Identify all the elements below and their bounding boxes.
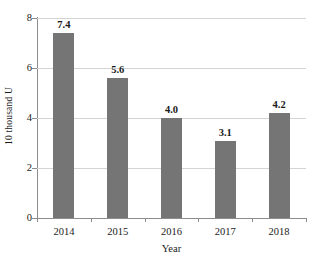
gridline-6	[37, 68, 306, 69]
bar-chart: 10 thousand U 7.45.64.03.14.2 02468 2014…	[0, 0, 327, 266]
y-tick-label: 0	[0, 213, 32, 224]
x-tick-label: 2016	[145, 226, 199, 238]
y-tick-mark-2	[32, 168, 37, 169]
bar-value-label: 4.2	[256, 99, 302, 110]
plot-area: 7.45.64.03.14.2	[37, 18, 306, 218]
y-tick-mark-8	[32, 18, 37, 19]
bar-value-label: 7.4	[41, 19, 87, 30]
x-tick-label: 2014	[37, 226, 91, 238]
x-tick-mark	[91, 218, 92, 222]
x-tick-mark	[37, 218, 38, 222]
x-axis-title: Year	[37, 243, 306, 254]
gridline-0	[37, 218, 306, 219]
y-tick-label: 6	[0, 63, 32, 74]
bar[interactable]	[161, 118, 182, 218]
x-tick-mark	[306, 218, 307, 222]
bar[interactable]	[269, 113, 290, 218]
x-tick-mark	[252, 218, 253, 222]
y-tick-label: 2	[0, 163, 32, 174]
y-tick-mark-6	[32, 68, 37, 69]
bar[interactable]	[107, 78, 128, 218]
x-tick-mark	[145, 218, 146, 222]
bar-value-label: 5.6	[95, 64, 141, 75]
y-tick-label: 8	[0, 13, 32, 24]
bar-value-label: 3.1	[202, 127, 248, 138]
bar[interactable]	[53, 33, 74, 218]
y-tick-mark-4	[32, 118, 37, 119]
x-tick-label: 2015	[91, 226, 145, 238]
x-tick-mark	[198, 218, 199, 222]
x-tick-label: 2017	[198, 226, 252, 238]
x-tick-label: 2018	[252, 226, 306, 238]
bar[interactable]	[215, 141, 236, 219]
bar-value-label: 4.0	[149, 104, 195, 115]
y-tick-label: 4	[0, 113, 32, 124]
